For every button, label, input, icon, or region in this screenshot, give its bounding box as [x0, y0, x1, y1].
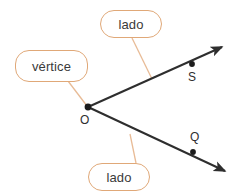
- connector-line-lado-top: [132, 38, 152, 79]
- vertex-point-o: [85, 104, 92, 111]
- callout-vertice-label: vértice: [32, 60, 71, 73]
- vertex-label-o: O: [80, 114, 89, 126]
- point-label-q: Q: [190, 131, 199, 143]
- ray-OS: [88, 47, 222, 107]
- angle-diagram-figure: vértice lado lado O S Q: [0, 0, 240, 193]
- callout-lado-bottom: lado: [88, 163, 150, 191]
- callout-lado-top: lado: [100, 10, 162, 38]
- point-s: [189, 61, 195, 67]
- ray-OQ: [88, 107, 225, 171]
- point-q: [190, 149, 196, 155]
- point-label-s: S: [188, 71, 196, 83]
- connector-line-vertice: [68, 81, 87, 106]
- callout-vertice: vértice: [15, 50, 88, 82]
- callout-lado-bottom-label: lado: [107, 171, 132, 184]
- connector-line-lado-bottom: [130, 134, 136, 163]
- callout-lado-top-label: lado: [119, 18, 144, 31]
